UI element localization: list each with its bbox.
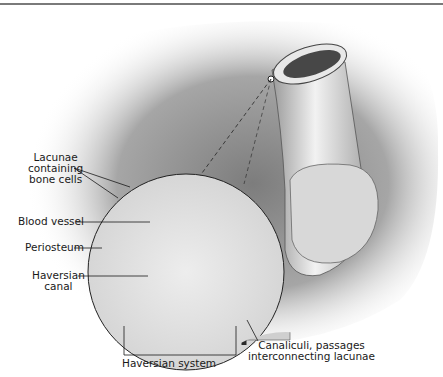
label-lacunae-line3: bone cells — [28, 174, 83, 185]
label-haversian-system: Haversian system — [122, 358, 216, 369]
bone-illustration — [0, 0, 443, 377]
label-canaliculi: Canaliculi, passages interconnecting lac… — [248, 340, 375, 362]
label-lacunae: Lacunae containing bone cells — [28, 152, 83, 185]
label-periosteum: Periosteum — [25, 242, 84, 253]
label-canaliculi-line2: interconnecting lacunae — [248, 351, 375, 362]
label-haversian-canal-line2: canal — [32, 281, 85, 292]
label-haversian-canal: Haversian canal — [32, 270, 85, 292]
label-blood-vessel: Blood vessel — [18, 216, 84, 227]
